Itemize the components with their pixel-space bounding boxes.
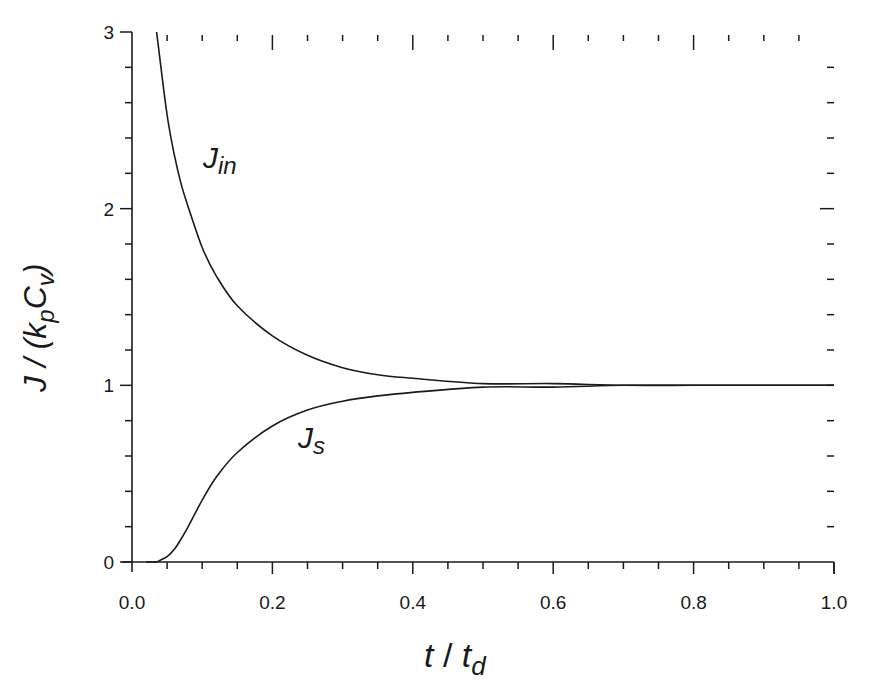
annotation-j-s-main: J	[297, 421, 314, 454]
x-tick-label: 1.0	[821, 592, 847, 613]
y-axis-title-c: C	[17, 285, 53, 309]
annotation-j-in: Jin	[202, 141, 237, 179]
x-tick-label: 0.2	[259, 592, 285, 613]
tick-labels: 0.00.20.40.60.81.00123	[103, 22, 847, 613]
annotation-j-s: Js	[297, 421, 325, 459]
axes	[122, 32, 834, 572]
x-tick-label: 0.0	[119, 592, 145, 613]
series-line-j-in	[157, 32, 834, 385]
annotation-j-in-main: J	[202, 141, 219, 174]
y-axis-title: J / (kpCv)	[17, 264, 59, 393]
annotation-j-in-sub: in	[218, 152, 237, 179]
x-tick-label: 0.6	[540, 592, 566, 613]
annotation-j-s-sub: s	[313, 432, 325, 459]
x-axis-title-slash: /	[433, 636, 461, 674]
y-tick-label: 0	[103, 552, 114, 573]
x-tick-label: 0.8	[680, 592, 706, 613]
y-axis-title-main: J / (k	[17, 321, 53, 393]
line-chart: 0.00.20.40.60.81.00123 Jin Js t / td J /…	[0, 0, 871, 689]
series-line-j-s	[146, 385, 834, 562]
curves	[146, 32, 834, 562]
y-tick-label: 1	[103, 375, 114, 396]
x-tick-label: 0.4	[400, 592, 427, 613]
y-axis-title-sub-p: p	[32, 309, 59, 323]
ticks	[120, 32, 834, 574]
x-axis-title: t / td	[424, 636, 487, 681]
x-axis-title-sub: d	[471, 651, 487, 681]
y-tick-label: 2	[103, 199, 114, 220]
y-tick-label: 3	[103, 22, 114, 43]
